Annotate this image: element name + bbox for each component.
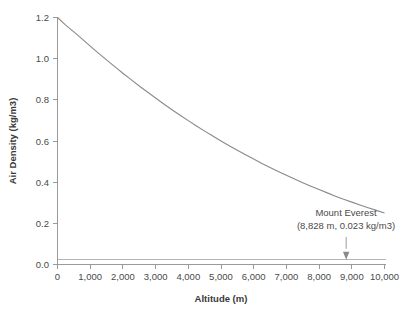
- x-tick-label: 1,000: [78, 271, 102, 282]
- y-axis-ticks: [53, 18, 58, 265]
- x-axis-title: Altitude (m): [195, 293, 248, 304]
- air-density-curve: [58, 18, 385, 214]
- y-tick-label: 0.8: [36, 94, 49, 105]
- y-axis-tick-labels: 0.0 0.2 0.4 0.6 0.8 1.0 1.2: [36, 12, 49, 270]
- chart-canvas: 0.0 0.2 0.4 0.6 0.8 1.0 1.2 0 1,000 2: [0, 0, 405, 324]
- annotation-arrow: [343, 237, 349, 260]
- x-tick-label: 9,000: [340, 271, 364, 282]
- x-axis-ticks: [58, 265, 385, 270]
- y-tick-label: 0.0: [36, 259, 49, 270]
- annotation-line-2: (8,828 m, 0.023 kg/m3): [297, 220, 395, 231]
- x-tick-label: 10,000: [370, 271, 399, 282]
- air-density-altitude-chart: 0.0 0.2 0.4 0.6 0.8 1.0 1.2 0 1,000 2: [0, 0, 405, 324]
- annotation-line-1: Mount Everest: [315, 207, 377, 218]
- x-axis-tick-labels: 0 1,000 2,000 3,000 4,000 5,000 6,000 7,…: [55, 271, 399, 282]
- x-tick-label: 3,000: [144, 271, 168, 282]
- x-tick-label: 6,000: [242, 271, 266, 282]
- mount-everest-annotation: Mount Everest (8,828 m, 0.023 kg/m3): [297, 207, 395, 231]
- y-tick-label: 0.6: [36, 136, 49, 147]
- x-tick-label: 8,000: [307, 271, 331, 282]
- y-axis-title: Air Density (kg/m3): [7, 98, 18, 185]
- y-tick-label: 0.4: [36, 177, 49, 188]
- y-tick-label: 1.0: [36, 53, 49, 64]
- y-tick-label: 0.2: [36, 218, 49, 229]
- x-tick-label: 4,000: [176, 271, 200, 282]
- x-tick-label: 2,000: [111, 271, 135, 282]
- y-tick-label: 1.2: [36, 12, 49, 23]
- x-tick-label: 5,000: [209, 271, 233, 282]
- x-tick-label: 0: [55, 271, 60, 282]
- x-tick-label: 7,000: [275, 271, 299, 282]
